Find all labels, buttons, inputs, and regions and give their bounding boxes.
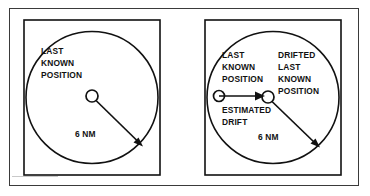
left-label-last: LAST	[41, 46, 64, 56]
right-label-last: LAST	[222, 50, 245, 60]
right-label-estimated: ESTIMATED	[222, 105, 271, 115]
drifted-last-known-position-panel: LAST KNOWN POSITION DRIFTED LAST KNOWN P…	[205, 20, 341, 175]
left-label-known: KNOWN	[41, 58, 74, 68]
left-radius-arrow-line	[96, 101, 139, 143]
left-panel-square	[24, 20, 160, 175]
diagram-canvas: LAST KNOWN POSITION 6 NM LAST KNOWN	[0, 0, 370, 196]
right-label-drift: DRIFT	[222, 117, 248, 127]
right-panel-square	[205, 20, 341, 175]
right-label-drifted-known: KNOWN	[278, 74, 311, 84]
left-label-position: POSITION	[41, 70, 82, 80]
last-known-position-panel: LAST KNOWN POSITION 6 NM	[24, 20, 160, 175]
right-label-radius: 6 NM	[258, 132, 279, 142]
last-known-position-marker	[86, 90, 98, 102]
right-label-position: POSITION	[222, 74, 263, 84]
left-label-radius: 6 NM	[75, 129, 96, 139]
figure-root: LAST KNOWN POSITION 6 NM LAST KNOWN	[0, 0, 370, 196]
right-label-drifted-position: POSITION	[278, 86, 319, 96]
right-label-drifted: DRIFTED	[278, 50, 315, 60]
right-label-known: KNOWN	[222, 62, 255, 72]
drifted-last-known-position-marker	[262, 91, 274, 103]
right-label-drifted-last: LAST	[278, 62, 301, 72]
